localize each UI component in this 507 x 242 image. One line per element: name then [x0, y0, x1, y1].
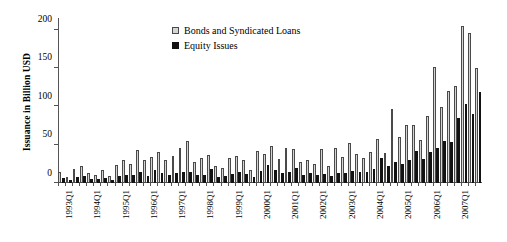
x-tick [475, 183, 476, 186]
bar-equity [401, 164, 404, 183]
legend-item: Equity Issues [172, 38, 300, 53]
bar-equity [472, 114, 475, 183]
bar-group [136, 18, 142, 183]
x-tick [185, 183, 186, 186]
bar-equity [97, 179, 100, 183]
bar-group [412, 18, 418, 183]
x-tick [440, 183, 441, 186]
bar-equity [224, 176, 227, 183]
legend-label: Equity Issues [184, 38, 238, 53]
bar-group [73, 18, 79, 183]
x-tick [178, 183, 179, 186]
x-tick [129, 183, 130, 186]
bar-equity [337, 173, 340, 183]
bar-group [157, 18, 163, 183]
bar-equity [139, 172, 142, 183]
x-tick [213, 183, 214, 186]
bar-group [426, 18, 432, 183]
bar-equity [231, 174, 234, 183]
bar-equity [274, 170, 277, 183]
x-tick-label: 2002Q1 [319, 190, 328, 219]
x-tick [270, 183, 271, 186]
x-tick-label: 1993Q1 [65, 190, 74, 219]
bar-group [80, 18, 86, 183]
legend-label: Bonds and Syndicated Loans [184, 23, 300, 38]
x-tick [411, 183, 412, 186]
bar-group [405, 18, 411, 183]
bar-group [376, 18, 382, 183]
y-tick-label: 50 [43, 130, 53, 140]
bar-group [440, 18, 446, 183]
x-tick [355, 183, 356, 186]
y-tick-label: 100 [38, 92, 52, 102]
y-tick-label: 0 [47, 169, 52, 179]
bar-group [348, 18, 354, 183]
bar-group [447, 18, 453, 183]
bar-equity [380, 158, 383, 183]
bar-equity [125, 175, 128, 183]
x-tick [334, 183, 335, 186]
bar-equity [302, 175, 305, 183]
bar-equity [436, 148, 439, 183]
x-tick [319, 183, 320, 186]
bar-equity [422, 159, 425, 183]
y-axis-title: Issuance in Billion USD [22, 17, 32, 187]
legend-swatch-bonds [172, 27, 179, 34]
bar-equity [147, 176, 150, 183]
bar-equity [210, 169, 213, 183]
x-tick [100, 183, 101, 186]
bar-group [391, 18, 397, 183]
x-tick [277, 183, 278, 186]
bar-equity [415, 151, 418, 183]
x-tick [369, 183, 370, 186]
bar-group [58, 18, 64, 183]
bar-equity [62, 178, 65, 183]
bar-equity [118, 176, 121, 183]
y-tick [54, 105, 58, 106]
bar-group [143, 18, 149, 183]
x-tick [390, 183, 391, 186]
bar-equity [408, 160, 411, 183]
x-tick-label: 1994Q1 [93, 190, 102, 219]
bar-group [454, 18, 460, 183]
x-tick-label: 1998Q1 [206, 190, 215, 219]
x-tick [447, 183, 448, 186]
bar-equity [90, 179, 93, 183]
bar-equity [387, 166, 390, 183]
x-tick [58, 183, 59, 186]
x-tick-label: 1999Q1 [235, 190, 244, 219]
x-tick [65, 183, 66, 186]
bar-group [341, 18, 347, 183]
bar-group [122, 18, 128, 183]
bar-group [66, 18, 72, 183]
bar-equity [175, 173, 178, 183]
bar-group [461, 18, 467, 183]
bar-equity [479, 92, 482, 183]
bar-group [115, 18, 121, 183]
x-tick [206, 183, 207, 186]
x-tick [115, 183, 116, 186]
bar-equity [217, 177, 220, 183]
x-tick [93, 183, 94, 186]
x-tick [150, 183, 151, 186]
x-tick-label: 2007Q1 [461, 190, 470, 219]
bar-group [94, 18, 100, 183]
bar-equity [366, 172, 369, 184]
x-tick [199, 183, 200, 186]
x-tick [86, 183, 87, 186]
x-tick-label: 2005Q1 [404, 190, 413, 219]
y-tick-label: 200 [38, 15, 52, 25]
x-tick-label: 1996Q1 [150, 190, 159, 219]
bar-group [101, 18, 107, 183]
x-tick [107, 183, 108, 186]
bar-group [327, 18, 333, 183]
x-tick [383, 183, 384, 186]
x-tick [136, 183, 137, 186]
bar-equity [309, 173, 312, 183]
bar-group [129, 18, 135, 183]
bar-equity [450, 142, 453, 183]
x-tick [461, 183, 462, 186]
x-tick [454, 183, 455, 186]
x-tick [341, 183, 342, 186]
bar-equity [253, 177, 256, 183]
